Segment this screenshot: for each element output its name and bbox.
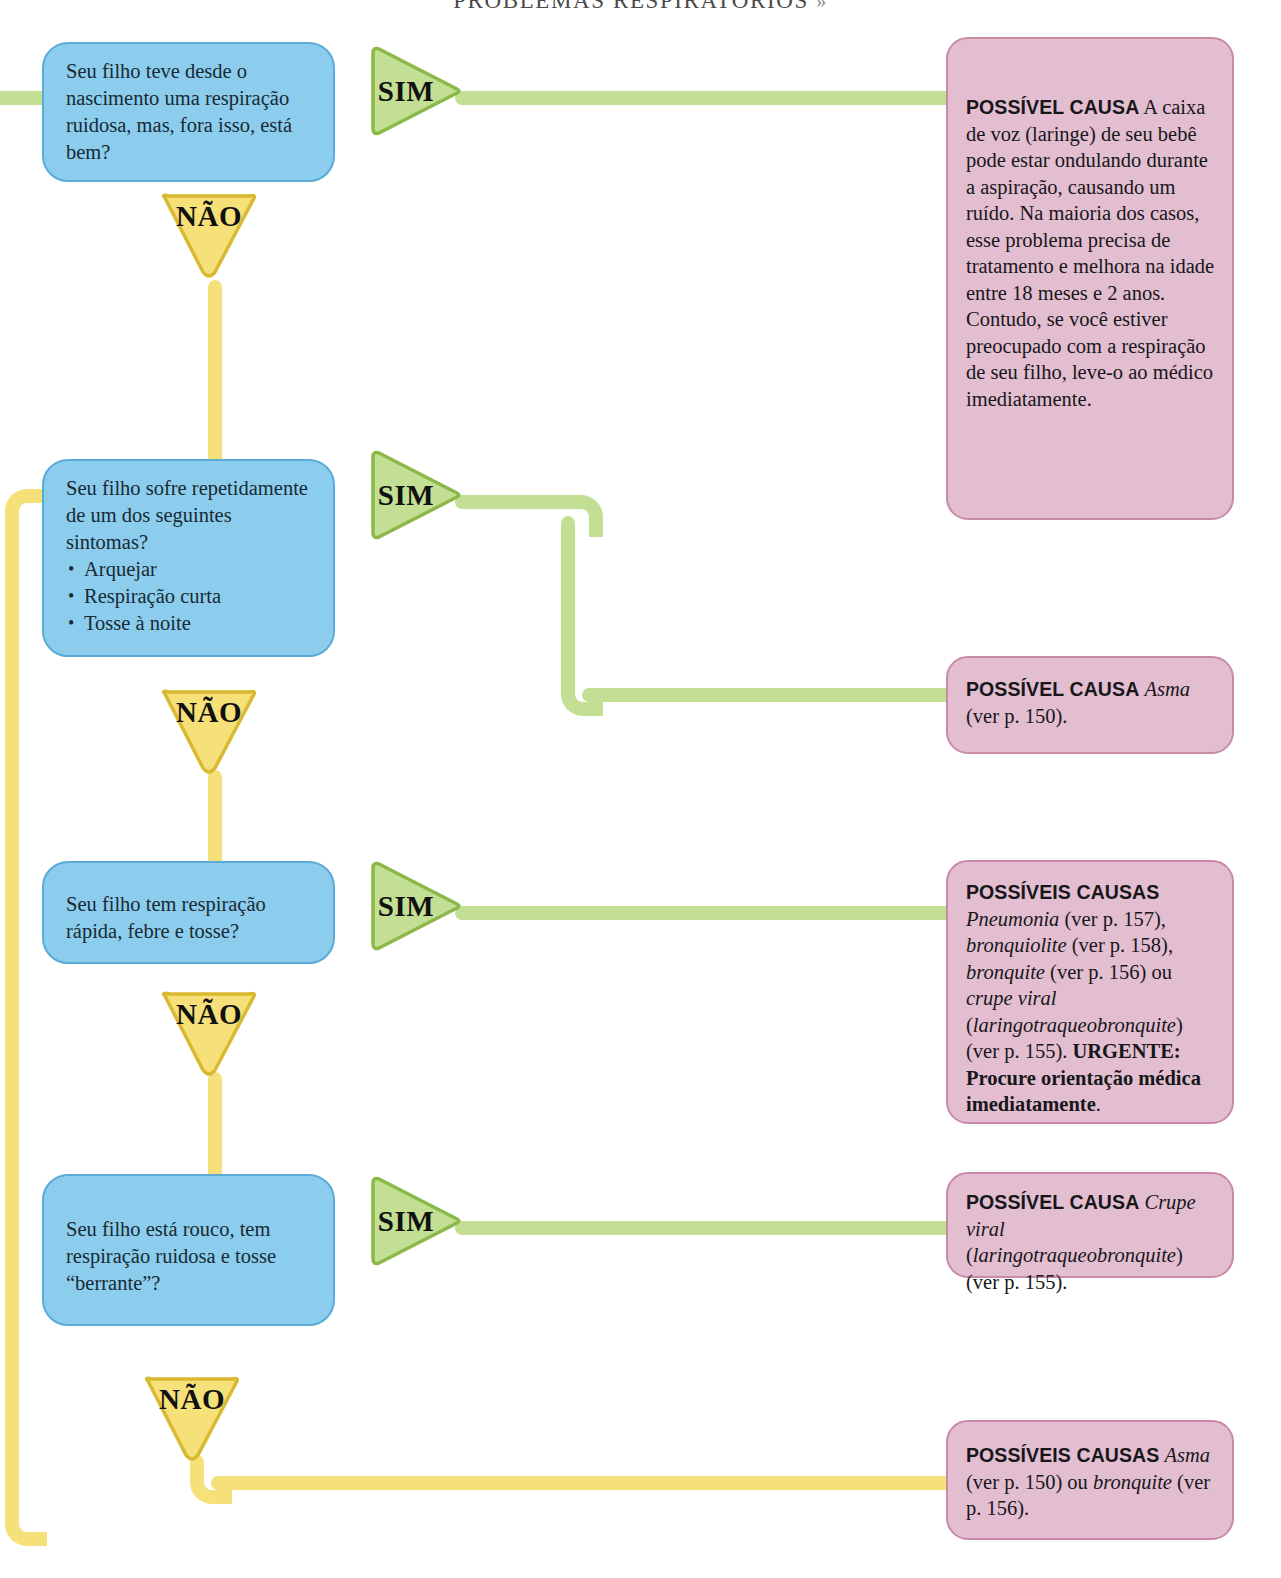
answer-3-term-5: laringotraqueobronquite [973,1014,1176,1036]
yes-arrow-3-label: SIM [367,890,445,923]
question-box-2[interactable]: Seu filho sofre repetidamente de um dos … [42,459,335,657]
connector-q1-no-vert [208,280,222,480]
page-header: PROBLEMAS RESPIRATÓRIOS » [0,0,1281,14]
question-2-bullet-1: Arquejar [66,556,315,583]
answer-5-heading: POSSÍVEIS CAUSAS [966,1444,1159,1466]
connector-q2-yes-h2 [582,688,955,702]
question-box-1[interactable]: Seu filho teve desde o nascimento uma re… [42,42,335,182]
connector-q2-yes-h1 [455,495,575,509]
answer-5-term-1: Asma [1165,1444,1211,1466]
answer-4-heading: POSSÍVEL CAUSA [966,1191,1139,1213]
answer-3-heading: POSSÍVEIS CAUSAS [966,881,1159,903]
no-arrow-2[interactable]: NÃO [157,688,261,774]
question-box-3[interactable]: Seu filho tem respiração rápida, febre e… [42,861,335,964]
answer-5-text-1: (ver p. 150) ou [966,1471,1093,1493]
connector-trunk-vertical [5,510,19,1532]
answer-3-text-4: ( [966,1014,973,1036]
no-arrow-3-label: NÃO [157,998,261,1031]
question-2-bullet-2: Respiração curta [66,583,315,610]
no-arrow-3[interactable]: NÃO [157,990,261,1076]
connector-trunk-corner-bottom [5,1504,47,1546]
no-arrow-4-label: NÃO [140,1383,244,1416]
no-arrow-1-label: NÃO [157,200,261,233]
answer-4-term-2: laringotraqueobronquite [973,1244,1176,1266]
question-3-text: Seu filho tem respiração rápida, febre e… [66,893,266,942]
answer-2-term: Asma [1144,678,1190,700]
answer-5-term-2: bronquite [1093,1471,1172,1493]
answer-1-heading: POSSÍVEL CAUSA [966,96,1139,118]
yes-arrow-2-label: SIM [367,479,445,512]
no-arrow-1[interactable]: NÃO [157,192,261,278]
answer-box-1[interactable]: POSSÍVEL CAUSA A caixa de voz (laringe) … [946,37,1234,520]
yes-arrow-2[interactable]: SIM [367,449,463,541]
answer-3-text-3: (ver p. 156) ou [1045,961,1172,983]
connector-q4-yes [455,1221,955,1235]
question-2-bullets: Arquejar Respiração curta Tosse à noite [66,556,315,637]
no-arrow-2-label: NÃO [157,696,261,729]
answer-box-3[interactable]: POSSÍVEIS CAUSAS Pneumonia (ver p. 157),… [946,860,1234,1124]
answer-box-4[interactable]: POSSÍVEL CAUSA Crupe viral (laringotraqu… [946,1172,1234,1278]
answer-3-term-4: crupe viral [966,987,1057,1009]
answer-1-body: A caixa de voz (laringe) de seu bebê pod… [966,96,1214,410]
answer-3-text-1: (ver p. 157), [1059,908,1165,930]
page-header-title: PROBLEMAS RESPIRATÓRIOS [453,0,809,13]
question-2-bullet-3: Tosse à noite [66,610,315,637]
yes-arrow-1[interactable]: SIM [367,45,463,137]
answer-2-body: (ver p. 150). [966,705,1067,727]
answer-box-5[interactable]: POSSÍVEIS CAUSAS Asma (ver p. 150) ou br… [946,1420,1234,1540]
question-box-4[interactable]: Seu filho está rouco, tem respiração rui… [42,1174,335,1326]
answer-3-term-1: Pneumonia [966,908,1059,930]
answer-3-term-2: bronquiolite [966,934,1067,956]
answer-3-text-6: . [1096,1093,1101,1115]
yes-arrow-4-label: SIM [367,1205,445,1238]
yes-arrow-4[interactable]: SIM [367,1175,463,1267]
answer-4-text-1: ( [966,1244,973,1266]
flowchart-canvas: PROBLEMAS RESPIRATÓRIOS » Seu filho teve… [0,0,1281,1578]
connector-q1-yes [455,91,955,105]
answer-3-text-2: (ver p. 158), [1067,934,1173,956]
question-2-text: Seu filho sofre repetidamente de um dos … [66,477,308,553]
no-arrow-4[interactable]: NÃO [140,1375,244,1461]
answer-box-2[interactable]: POSSÍVEL CAUSA Asma (ver p. 150). [946,656,1234,754]
question-4-text: Seu filho está rouco, tem respiração rui… [66,1218,276,1294]
page-header-marker: » [816,0,828,12]
connector-q4-no-h [211,1476,956,1490]
yes-arrow-1-label: SIM [367,75,445,108]
answer-3-term-3: bronquite [966,961,1045,983]
connector-q3-yes [455,906,955,920]
yes-arrow-3[interactable]: SIM [367,860,463,952]
question-1-text: Seu filho teve desde o nascimento uma re… [66,60,292,163]
answer-2-heading: POSSÍVEL CAUSA [966,678,1139,700]
